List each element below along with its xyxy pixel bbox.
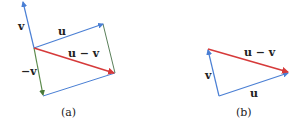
label-u-b: u	[250, 87, 258, 100]
label-u-a: u	[58, 25, 66, 38]
panel-b: u − v v u (b)	[204, 46, 288, 119]
vector-v-a	[23, 2, 34, 48]
label-v-b: v	[204, 69, 212, 82]
panel-a: v u u − v −v (a)	[17, 2, 115, 119]
vector-u-a	[34, 24, 103, 48]
edge-right	[103, 24, 115, 73]
label-diff-b: u − v	[244, 46, 276, 59]
caption-b: (b)	[236, 106, 252, 119]
vector-diagram: v u u − v −v (a) u − v v u (b)	[0, 0, 293, 122]
label-diff-a: u − v	[68, 47, 100, 60]
edge-bottom	[43, 73, 115, 96]
label-neg-v: −v	[21, 65, 37, 78]
caption-a: (a)	[61, 106, 76, 119]
label-v-a: v	[17, 20, 25, 33]
